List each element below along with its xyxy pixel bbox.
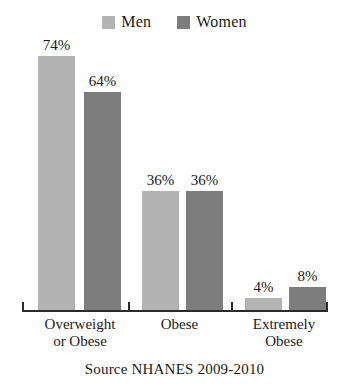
axis-tick-2 xyxy=(231,302,233,311)
source-caption: Source NHANES 2009-2010 xyxy=(0,361,349,378)
category-label-overweight-or-obese: Overweight or Obese xyxy=(18,316,142,350)
bar-value-men-overweight-or-obese: 74% xyxy=(38,38,75,53)
bar-men-overweight-or-obese[interactable] xyxy=(38,56,75,311)
plot-area: 74% 64% 36% 36% 4% 8% Overweight or Obes… xyxy=(0,0,349,391)
bar-women-overweight-or-obese[interactable] xyxy=(84,92,121,311)
bar-women-obese[interactable] xyxy=(186,191,223,311)
bar-value-women-extremely-obese: 8% xyxy=(289,269,326,284)
bar-men-obese[interactable] xyxy=(142,191,179,311)
bar-women-extremely-obese[interactable] xyxy=(289,287,326,311)
bar-value-women-obese: 36% xyxy=(186,173,223,188)
x-axis-line xyxy=(22,310,328,312)
category-label-extremely-obese: Extremely Obese xyxy=(229,316,339,350)
bar-chart: Men Women 74% 64% 36% 36% 4% 8% Overweig xyxy=(0,0,349,391)
bar-value-women-overweight-or-obese: 64% xyxy=(84,74,121,89)
bar-value-men-extremely-obese: 4% xyxy=(245,280,282,295)
axis-tick-left xyxy=(22,302,24,311)
axis-tick-1 xyxy=(128,302,130,311)
axis-tick-right xyxy=(326,302,328,311)
bar-value-men-obese: 36% xyxy=(142,173,179,188)
category-label-obese: Obese xyxy=(128,316,231,333)
